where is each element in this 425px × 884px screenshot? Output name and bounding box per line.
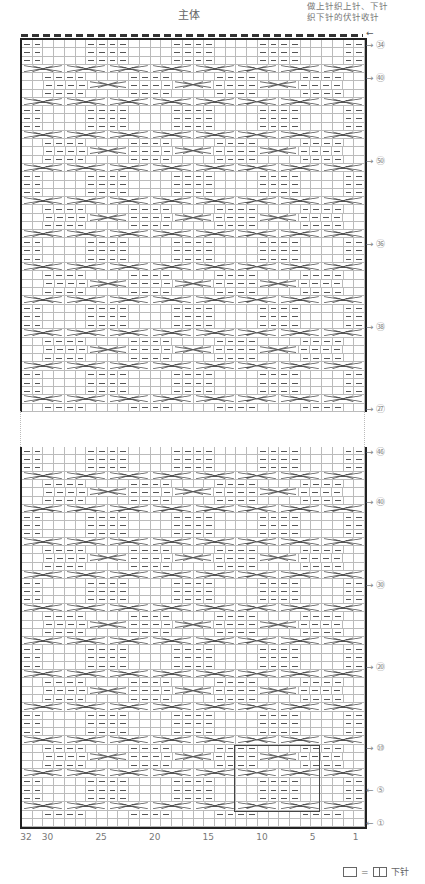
cable-cross-icon [151, 230, 194, 238]
purl-stitch-cell [269, 579, 280, 587]
stitch-cell [226, 106, 237, 114]
chart-row [22, 98, 365, 106]
cable-cross-icon [151, 395, 194, 403]
stitch-cell [54, 123, 65, 131]
purl-stitch-cell [151, 81, 162, 89]
purl-stitch-cell [247, 811, 258, 819]
purl-stitch-cell [33, 579, 44, 587]
purl-stitch-cell [236, 753, 247, 761]
chart-row [22, 736, 365, 744]
purl-stitch-cell [258, 712, 269, 720]
stitch-cell [301, 819, 312, 827]
purl-stitch-cell [279, 521, 290, 529]
cable-cross-icon [108, 98, 151, 106]
purl-stitch-cell [140, 147, 151, 155]
purl-stitch-cell [140, 687, 151, 695]
purl-stitch-cell [108, 114, 119, 122]
purl-stitch-cell [118, 371, 129, 379]
stitch-cell [215, 728, 226, 736]
stitch-cell [333, 387, 344, 395]
stitch-cell [65, 48, 76, 56]
cable-cross-icon [88, 554, 129, 562]
purl-stitch-cell [86, 447, 97, 455]
stitch-cell [290, 761, 301, 769]
purl-stitch-cell [22, 794, 33, 802]
stitch-cell [54, 48, 65, 56]
cable-cross-icon [236, 362, 279, 370]
purl-stitch-cell [22, 371, 33, 379]
stitch-cell [54, 305, 65, 313]
purl-stitch-cell [97, 238, 108, 246]
stitch-cell [54, 464, 65, 472]
stitch-cell [311, 654, 322, 662]
purl-stitch-cell [226, 546, 237, 554]
stitch-cell [333, 819, 344, 827]
stitch-cell [204, 90, 215, 98]
stitch-cell [236, 172, 247, 180]
chart-row [22, 238, 365, 246]
stitch-cell [140, 181, 151, 189]
purl-stitch-cell [344, 794, 355, 802]
purl-stitch-cell [247, 354, 258, 362]
stitch-cell [161, 662, 172, 670]
purl-stitch-cell [322, 156, 333, 164]
stitch-cell [226, 579, 237, 587]
purl-stitch-cell [151, 338, 162, 346]
stitch-cell [33, 819, 44, 827]
purl-stitch-cell [129, 156, 140, 164]
purl-stitch-cell [172, 172, 183, 180]
stitch-cell [236, 48, 247, 56]
stitch-cell [290, 695, 301, 703]
purl-stitch-cell [236, 761, 247, 769]
stitch-cell [215, 305, 226, 313]
stitch-cell [22, 354, 33, 362]
stitch-cell [279, 819, 290, 827]
purl-stitch-cell [54, 563, 65, 571]
purl-stitch-cell [172, 123, 183, 131]
stitch-cell [161, 48, 172, 56]
purl-stitch-cell [118, 712, 129, 720]
purl-stitch-cell [215, 338, 226, 346]
purl-stitch-cell [214, 687, 225, 695]
stitch-cell [290, 139, 301, 147]
purl-stitch-cell [322, 480, 333, 488]
purl-stitch-cell [108, 379, 119, 387]
purl-stitch-cell [118, 513, 129, 521]
purl-stitch-cell [279, 662, 290, 670]
chart-row [22, 629, 365, 637]
purl-stitch-cell [214, 280, 225, 288]
stitch-cell [311, 114, 322, 122]
cable-cross-icon [236, 802, 279, 810]
stitch-cell [333, 247, 344, 255]
chart-row [22, 147, 365, 155]
purl-stitch-cell [344, 247, 355, 255]
stitch-cell [22, 761, 33, 769]
purl-stitch-cell [172, 786, 183, 794]
purl-stitch-cell [226, 222, 237, 230]
stitch-cell [86, 811, 97, 819]
purl-stitch-cell [118, 305, 129, 313]
stitch-cell [65, 255, 76, 263]
purl-stitch-cell [301, 563, 312, 571]
stitch-cell [161, 40, 172, 48]
purl-stitch-cell [77, 214, 88, 222]
stitch-cell [151, 371, 162, 379]
cable-cross-icon [151, 263, 194, 271]
purl-stitch-cell [86, 654, 97, 662]
stitch-cell [269, 629, 280, 637]
stitch-cell [54, 819, 65, 827]
stitch-cell [247, 321, 258, 329]
stitch-cell [151, 305, 162, 313]
stitch-cell [344, 745, 355, 753]
stitch-cell [226, 786, 237, 794]
cable-cross-icon [108, 296, 151, 304]
purl-stitch-cell [97, 588, 108, 596]
stitch-cell [215, 513, 226, 521]
cable-cross-icon [108, 769, 151, 777]
stitch-cell [322, 530, 333, 538]
purl-stitch-cell [108, 645, 119, 653]
stitch-cell [33, 480, 44, 488]
stitch-cell [33, 554, 44, 562]
purl-stitch-cell [183, 189, 194, 197]
purl-stitch-cell [22, 106, 33, 114]
